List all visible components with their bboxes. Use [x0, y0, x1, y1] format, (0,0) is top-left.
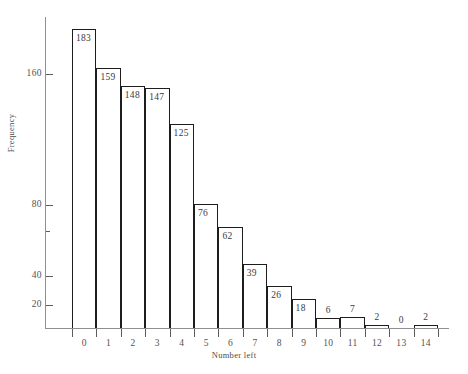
- x-tick-label: 9: [291, 339, 317, 349]
- bar-value-label: 7: [340, 305, 364, 315]
- histogram-bar: [121, 86, 145, 328]
- x-tick-label: 13: [388, 339, 414, 349]
- x-tick-label: 7: [242, 339, 268, 349]
- bar-value-label: 147: [149, 93, 164, 103]
- x-tick-mark: [96, 329, 97, 337]
- y-tick-label-wrap: 80: [0, 200, 42, 210]
- bar-value-label: 2: [414, 313, 438, 323]
- x-tick-mark: [292, 329, 293, 337]
- y-tick-label-wrap: 40: [0, 271, 42, 281]
- bar-value-label: 0: [389, 316, 413, 326]
- histogram-bar: [145, 88, 169, 328]
- x-tick-label: 12: [364, 339, 390, 349]
- histogram-bar: [365, 325, 389, 328]
- x-tick-label: 0: [71, 339, 97, 349]
- x-tick-mark: [218, 329, 219, 337]
- x-tick-label: 2: [120, 339, 146, 349]
- bar-value-label: 39: [247, 269, 257, 279]
- bar-value-label: 62: [222, 232, 232, 242]
- bar-value-label: 18: [296, 304, 306, 314]
- x-tick-mark: [316, 329, 317, 337]
- y-axis-line: [45, 17, 46, 329]
- x-tick-mark: [414, 329, 415, 337]
- x-tick-label: 11: [340, 339, 366, 349]
- bar-value-label: 125: [174, 129, 189, 139]
- x-tick-mark: [389, 329, 390, 337]
- x-tick-label: 5: [193, 339, 219, 349]
- x-tick-mark: [267, 329, 268, 337]
- x-tick-mark: [170, 329, 171, 337]
- histogram-bar: [72, 29, 96, 328]
- histogram-bar: [96, 68, 120, 328]
- histogram-bar: [194, 204, 218, 328]
- y-axis-title: Frequency: [6, 98, 16, 168]
- y-tick-label-wrap: 160: [0, 69, 42, 79]
- x-tick-label: 10: [315, 339, 341, 349]
- x-tick-mark: [194, 329, 195, 337]
- x-tick-label: 1: [96, 339, 122, 349]
- histogram-bar: [218, 227, 242, 328]
- histogram-figure: Frequency Number left 204080160 01234567…: [0, 0, 468, 374]
- x-tick-label: 3: [144, 339, 170, 349]
- histogram-bar: [170, 124, 194, 328]
- x-tick-mark: [340, 329, 341, 337]
- y-tick-label: 20: [16, 300, 42, 310]
- histogram-bar: [414, 325, 438, 328]
- bar-value-label: 6: [316, 306, 340, 316]
- y-tick-label: 40: [16, 271, 42, 281]
- y-tick-mark: [46, 205, 53, 206]
- histogram-bar: [316, 318, 340, 328]
- y-tick-mark: [46, 74, 53, 75]
- y-tick-mark: [46, 305, 53, 306]
- x-tick-mark: [121, 329, 122, 337]
- y-tick-label-wrap: 20: [0, 300, 42, 310]
- x-tick-label: 6: [218, 339, 244, 349]
- x-axis-title: Number left: [0, 350, 468, 360]
- bar-value-label: 159: [100, 73, 115, 83]
- x-tick-mark: [365, 329, 366, 337]
- x-tick-label: 8: [266, 339, 292, 349]
- x-tick-mark: [145, 329, 146, 337]
- x-tick-mark: [438, 329, 439, 337]
- x-tick-mark: [72, 329, 73, 337]
- y-tick-mark: [46, 276, 53, 277]
- x-tick-label: 4: [169, 339, 195, 349]
- y-minor-tick-mark: [46, 231, 50, 232]
- bar-value-label: 148: [125, 91, 140, 101]
- bar-value-label: 26: [271, 291, 281, 301]
- bar-value-label: 183: [76, 34, 91, 44]
- y-tick-label: 160: [16, 69, 42, 79]
- y-tick-label: 80: [16, 200, 42, 210]
- x-tick-mark: [243, 329, 244, 337]
- histogram-bar: [340, 317, 364, 328]
- x-tick-label: 14: [413, 339, 439, 349]
- bar-value-label: 2: [365, 313, 389, 323]
- bar-value-label: 76: [198, 209, 208, 219]
